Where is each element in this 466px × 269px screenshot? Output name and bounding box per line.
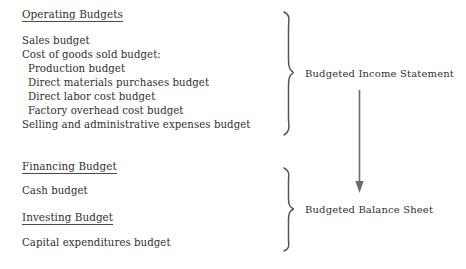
heading-financing-budget: Financing Budget bbox=[22, 160, 117, 174]
list-item-sales-budget: Sales budget bbox=[22, 35, 90, 47]
list-item-direct-materials-purchases-budget: Direct materials purchases budget bbox=[28, 77, 209, 89]
budget-diagram-canvas: Operating Budgets Sales budget Cost of g… bbox=[0, 0, 466, 269]
down-arrow-icon bbox=[350, 88, 370, 198]
curly-brace-upper-icon bbox=[250, 8, 282, 140]
heading-investing-budget: Investing Budget bbox=[22, 211, 113, 225]
list-item-direct-labor-cost-budget: Direct labor cost budget bbox=[28, 91, 155, 103]
output-budgeted-balance-sheet: Budgeted Balance Sheet bbox=[305, 204, 433, 215]
list-item-capital-expenditures-budget: Capital expenditures budget bbox=[22, 237, 171, 249]
list-item-cash-budget: Cash budget bbox=[22, 185, 88, 197]
list-item-cost-of-goods-sold-budget: Cost of goods sold budget: bbox=[22, 49, 161, 61]
output-budgeted-income-statement: Budgeted Income Statement bbox=[305, 68, 454, 79]
list-item-selling-and-administrative-expenses-budget: Selling and administrative expenses budg… bbox=[22, 119, 250, 131]
list-item-factory-overhead-cost-budget: Factory overhead cost budget bbox=[28, 105, 184, 117]
list-item-production-budget: Production budget bbox=[28, 63, 125, 75]
curly-brace-lower-icon bbox=[250, 165, 282, 255]
heading-operating-budgets: Operating Budgets bbox=[22, 8, 123, 22]
